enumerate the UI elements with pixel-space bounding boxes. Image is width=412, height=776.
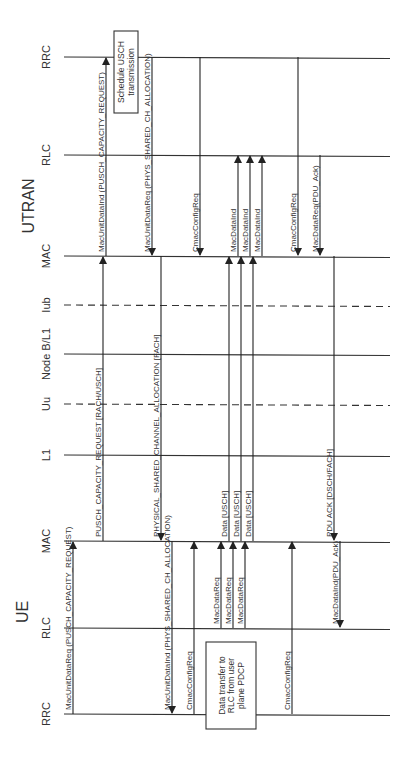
lifeline-label: RLC (40, 144, 52, 166)
message-arrow: PDU ACK [DSCH/FACH] (325, 256, 335, 540)
box-schedule_usch: Schedule USCHtransmission (114, 31, 138, 113)
message-label: CmacConfigReq (191, 193, 200, 252)
message-arrow: Data [USCH] (232, 257, 242, 541)
lifeline-nodeb: Node B/L1 (40, 328, 390, 380)
message-arrow: PUSCH_CAPACITY_REQUEST [RACH/USCH] (94, 257, 104, 541)
message-label: MacUnitDataInd (PUSCH_CAPACITY_REQUEST) (97, 72, 106, 252)
message-arrow: PHYSICAL_SHARED_CHANNEL_ALLOCATION [FACH… (152, 256, 162, 540)
lifeline-label: L1 (40, 449, 52, 461)
message-label: MacDataReq(PDU_Ack) (311, 165, 320, 252)
message-label: MacDataInd (229, 209, 238, 252)
lifeline-line (64, 541, 390, 543)
messages: MacUnitDataReq (PUSCH_CAPACITY_REQUEST)P… (64, 53, 341, 714)
message-arrow: MacDataInd (241, 156, 251, 256)
message-label: PUSCH_CAPACITY_REQUEST [RACH/USCH] (94, 368, 103, 537)
message-arrow: MacUnitDataReq (PUSCH_CAPACITY_REQUEST) (64, 526, 74, 714)
message-label: MacDataReq (236, 577, 245, 624)
lifeline-label: Iub (40, 297, 52, 312)
lifeline-uu: Uu (40, 397, 390, 411)
lifeline-line (64, 57, 390, 59)
message-arrow: Data [USCH] (244, 257, 254, 541)
lifeline-line (64, 354, 390, 356)
box-text: plane PDCP (236, 662, 246, 709)
message-label: CmacConfigReq (289, 193, 298, 252)
message-label: MacDataReq (224, 577, 233, 624)
lifeline-label: RLC (40, 617, 52, 639)
lifeline-ue_l1: L1 (40, 449, 390, 461)
message-label: MacUnitDataInd (PHYS_SHARED_CH_ALLOCATIO… (163, 515, 172, 710)
lifeline-line (64, 256, 390, 258)
lifeline-label: MAC (40, 529, 52, 554)
message-label: MacDataInd (253, 209, 262, 252)
box-text: Schedule USCH (116, 41, 126, 103)
lifeline-label: Uu (40, 397, 52, 411)
lifeline-line (64, 155, 390, 157)
lifeline-line (64, 455, 390, 457)
message-arrow: CmacConfigReq (283, 542, 293, 714)
message-arrow: MacUnitDataInd (PHYS_SHARED_CH_ALLOCATIO… (163, 515, 173, 713)
message-label: MacUnitDataReq (PHYS_SHARED_CH_ALLOCATIO… (143, 53, 152, 252)
lifeline-label: RRC (40, 45, 52, 69)
box-data_transfer: Data transfer toRLC from userplane PDCP (206, 642, 256, 729)
lifeline-utran_rlc: RLC (40, 144, 390, 166)
lifeline-iub: Iub (40, 297, 390, 312)
lifeline-line (64, 628, 390, 630)
message-label: MacDataReq (212, 577, 221, 624)
lifeline-label: MAC (40, 244, 52, 269)
message-arrow: MacDataReq (224, 542, 234, 628)
message-label: MacDataInd (241, 209, 250, 252)
message-arrow: MacUnitDataInd (PUSCH_CAPACITY_REQUEST) (97, 58, 107, 256)
message-arrow: MacDataInd (229, 156, 239, 256)
lifeline-utran_mac: MAC (40, 244, 390, 269)
lifeline-utran_rrc: RRC (40, 45, 390, 69)
box-text: RLC from user (226, 658, 236, 713)
sequence-diagram: UTRAN UE RRCRLCMACIubNode B/L1UuL1MACRLC… (0, 0, 412, 776)
message-arrow: Data [USCH] (220, 257, 230, 541)
message-arrow: CmacConfigReq (185, 542, 195, 714)
message-label: CmacConfigReq (283, 651, 292, 710)
box-text: transmission (126, 48, 136, 96)
lifeline-label: RRC (40, 702, 52, 726)
message-label: Data [USCH] (232, 491, 241, 537)
message-arrow: MacUnitDataReq (PHYS_SHARED_CH_ALLOCATIO… (143, 53, 153, 255)
message-arrow: MacDataReq(PDU_Ack) (311, 155, 321, 255)
message-arrow: MacDataReq (212, 542, 222, 628)
message-arrow: MacDataReq (236, 542, 246, 628)
message-arrow: MacDataInd (253, 156, 263, 256)
lifeline-label: Node B/L1 (40, 328, 52, 380)
message-label: PHYSICAL_SHARED_CHANNEL_ALLOCATION [FACH… (152, 334, 161, 537)
message-arrow: MacDataInd(PDU_Ack) (331, 541, 341, 627)
lifeline-line (64, 404, 390, 406)
message-label: MacUnitDataReq (PUSCH_CAPACITY_REQUEST) (64, 526, 73, 710)
message-label: PDU ACK [DSCH/FACH] (325, 449, 334, 537)
lifeline-line (64, 305, 390, 307)
message-label: MacDataInd(PDU_Ack) (331, 541, 340, 624)
group-label-utran: UTRAN (20, 178, 37, 233)
message-label: CmacConfigReq (185, 651, 194, 710)
box-text: Data transfer to (217, 656, 227, 715)
message-label: Data [USCH] (244, 491, 253, 537)
message-label: Data [USCH] (220, 491, 229, 537)
group-label-ue: UE (14, 601, 31, 623)
